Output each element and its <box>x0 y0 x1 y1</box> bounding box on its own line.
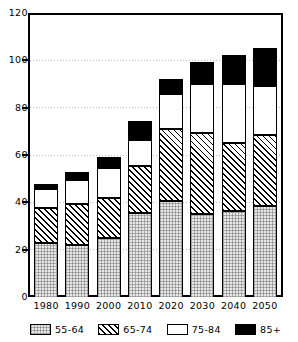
bar-segment-85-plus <box>65 172 89 180</box>
bar-segment-85-plus <box>222 55 246 83</box>
bar-segment-85-plus <box>128 121 152 140</box>
y-axis: 020406080100120 <box>0 0 28 342</box>
bar-segment-75-84 <box>97 168 121 198</box>
bar-1980[interactable] <box>34 184 58 297</box>
bar-segment-65-74 <box>159 129 183 201</box>
bar-segment-85-plus <box>253 48 277 86</box>
stacked-bar-chart: 020406080100120 198019902000201020202030… <box>0 0 298 342</box>
legend-item-85-plus[interactable]: 85+ <box>235 324 281 335</box>
bar-segment-55-64 <box>222 211 246 297</box>
legend-label-55-64: 55-64 <box>55 324 84 335</box>
bar-segment-75-84 <box>222 84 246 144</box>
bar-segment-65-74 <box>65 204 89 245</box>
bar-segment-85-plus <box>34 184 58 189</box>
bar-2050[interactable] <box>253 48 277 297</box>
bar-segment-85-plus <box>190 62 214 83</box>
bar-segment-75-84 <box>34 189 58 208</box>
legend-item-55-64[interactable]: 55-64 <box>30 324 84 335</box>
bar-segment-55-64 <box>128 213 152 297</box>
bar-segment-75-84 <box>128 140 152 166</box>
bar-segment-85-plus <box>159 79 183 94</box>
bar-segment-55-64 <box>97 238 121 297</box>
chart-legend: 55-64 65-74 75-84 85+ <box>28 320 283 338</box>
bar-2010[interactable] <box>128 121 152 297</box>
bar-2020[interactable] <box>159 79 183 297</box>
bar-segment-75-84 <box>190 84 214 133</box>
bar-segment-55-64 <box>190 214 214 297</box>
bar-segment-65-74 <box>253 135 277 205</box>
bar-segment-75-84 <box>159 94 183 129</box>
bar-segment-55-64 <box>159 201 183 297</box>
y-tick-label: 0 <box>4 292 28 302</box>
bar-segment-65-74 <box>97 198 121 238</box>
legend-item-75-84[interactable]: 75-84 <box>167 324 221 335</box>
bar-segment-55-64 <box>253 206 277 297</box>
legend-swatch-55-64-icon <box>30 324 51 335</box>
x-tick-label-2050: 2050 <box>245 300 285 311</box>
bar-2040[interactable] <box>222 55 246 297</box>
bar-segment-55-64 <box>34 243 58 297</box>
legend-swatch-85-plus-icon <box>235 324 256 335</box>
bar-2000[interactable] <box>97 157 121 297</box>
legend-swatch-75-84-icon <box>167 324 188 335</box>
legend-label-85-plus: 85+ <box>260 324 281 335</box>
bar-1990[interactable] <box>65 172 89 297</box>
legend-label-65-74: 65-74 <box>123 324 152 335</box>
bar-segment-65-74 <box>34 208 58 243</box>
legend-label-75-84: 75-84 <box>192 324 221 335</box>
bar-2030[interactable] <box>190 62 214 297</box>
bars-layer <box>31 16 281 298</box>
bar-segment-75-84 <box>253 86 277 135</box>
legend-swatch-65-74-icon <box>98 324 119 335</box>
bar-segment-65-74 <box>190 133 214 214</box>
legend-item-65-74[interactable]: 65-74 <box>98 324 152 335</box>
bar-segment-65-74 <box>128 166 152 213</box>
bar-segment-55-64 <box>65 245 89 297</box>
bar-segment-75-84 <box>65 180 89 205</box>
y-tick-label: 120 <box>4 8 28 18</box>
bar-segment-85-plus <box>97 157 121 168</box>
bar-segment-65-74 <box>222 143 246 211</box>
